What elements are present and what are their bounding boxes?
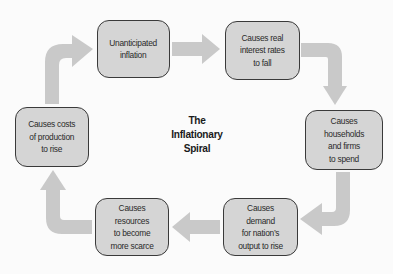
node-label-line: Causes demand (232, 202, 289, 227)
node-label-line: to fall (240, 57, 285, 70)
node-label-line: to become (104, 227, 160, 240)
node-label-line: Causes households (314, 115, 374, 140)
node-label-line: more scarce (104, 240, 160, 253)
arrow-bend-left-icon (300, 172, 350, 235)
node-label-line: output to rise (232, 240, 289, 253)
node-label-line: and firms (314, 140, 374, 153)
node-costs-production-rise: Causes costs of production to rise (15, 107, 89, 167)
arrow-bend-down-icon (301, 43, 347, 105)
title-line: The (156, 113, 239, 127)
arrow-right-icon (172, 34, 220, 64)
node-unanticipated-inflation: Unanticipated inflation (97, 20, 170, 78)
diagram-title: The Inflationary Spiral (150, 113, 244, 155)
node-label-line: to rise (28, 143, 75, 156)
node-label-line: to spend (314, 153, 374, 166)
node-label-line: Causes resources (104, 202, 160, 227)
node-label-line: interest rates (240, 44, 285, 57)
arrow-left-icon (172, 212, 220, 242)
node-real-interest-rates-fall: Causes real interest rates to fall (225, 21, 300, 80)
arrow-bend-right-icon (45, 35, 93, 104)
node-label-line: Causes costs (28, 118, 75, 131)
node-resources-scarce: Causes resources to become more scarce (95, 198, 169, 256)
node-households-firms-spend: Causes households and firms to spend (305, 110, 383, 170)
node-demand-output-rise: Causes demand for nation’s output to ris… (223, 198, 298, 256)
node-label-line: Causes real (240, 32, 285, 45)
title-line: Inflationary (156, 127, 239, 141)
node-label-line: inflation (110, 49, 158, 62)
arrow-bend-up-icon (40, 170, 92, 234)
node-label-line: for nation’s (232, 227, 289, 240)
node-label-line: of production (28, 131, 75, 144)
inflationary-spiral-diagram: The Inflationary Spiral Unanticipated in… (0, 0, 393, 274)
title-line: Spiral (156, 141, 239, 155)
node-label-line: Unanticipated (110, 37, 158, 50)
